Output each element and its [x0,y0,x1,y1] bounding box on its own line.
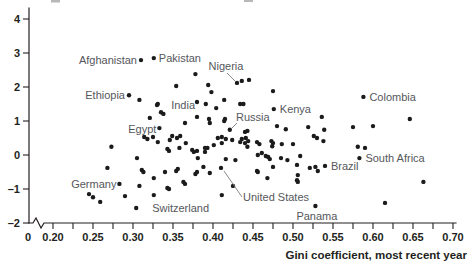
country-label: Pakistan [159,52,201,64]
data-point [167,149,171,153]
data-point [137,184,141,188]
data-point [271,89,275,93]
x-tick-label: 0.35 [162,231,183,243]
data-point [233,158,237,162]
data-point [256,153,260,157]
data-point [87,192,91,196]
x-tick-label: 0.45 [242,231,263,243]
country-label: Panama [296,210,338,222]
label-leader-line [232,123,237,128]
data-point [320,115,324,119]
data-point [184,141,188,145]
data-point [296,173,300,177]
country-label: India [171,99,196,111]
y-tick-label: 4 [14,13,21,25]
data-point [135,156,139,160]
data-point [145,137,149,141]
data-point [141,170,145,174]
x-tick-label: 0.40 [202,231,223,243]
data-point [265,176,269,180]
data-point [280,142,284,146]
data-point [315,136,319,140]
data-point [222,119,226,123]
x-tick-label: 0.25 [82,231,103,243]
data-point [421,180,425,184]
data-point [291,142,295,146]
data-point [98,200,102,204]
data-point [284,127,288,131]
y-tick-label: –1 [8,183,20,195]
data-point [205,146,209,150]
data-point [178,134,182,138]
data-point [240,79,244,83]
data-point [209,90,213,94]
x-tick-label: 0.55 [322,231,343,243]
data-point [208,121,212,125]
data-point [241,102,245,106]
y-tick-label: 0 [14,149,20,161]
data-point [270,144,274,148]
data-point [296,180,300,184]
data-point [152,193,156,197]
data-point [206,83,210,87]
labeled-data-point [134,206,138,210]
x-tick-label: 0.70 [442,231,463,243]
data-point [257,142,261,146]
data-point [316,169,320,173]
y-tick-label: 1 [14,115,20,127]
x-tick-label: 0.30 [122,231,143,243]
data-point [105,166,109,170]
scatter-chart: 43210–1–20.200.250.300.350.400.450.500.5… [0,0,470,273]
data-point [240,137,244,141]
labeled-data-point [157,126,161,130]
data-point [109,145,113,149]
labeled-data-point [195,100,199,104]
data-point [243,141,247,145]
country-label: Switzerland [152,202,209,214]
labeled-data-point [313,204,317,208]
data-point [271,165,275,169]
data-point [168,138,172,142]
data-point [183,121,187,125]
data-point [222,98,226,102]
data-point [174,84,178,88]
country-label: South Africa [365,152,425,164]
data-point [243,130,247,134]
x-axis-title: Gini coefficient, most recent year [285,249,467,261]
data-point [196,156,200,160]
x-tick-label: 0.60 [362,231,383,243]
data-point [156,140,160,144]
country-label: Germany [71,178,117,190]
data-point [212,143,216,147]
country-label: Brazil [331,160,359,172]
labeled-data-point [152,56,156,60]
y-tick-label: 3 [14,47,20,59]
data-point [245,145,249,149]
country-label: Nigeria [209,60,245,72]
axes: 43210–1–20.200.250.300.350.400.450.500.5… [8,8,464,243]
data-point [363,146,367,150]
data-point [201,165,205,169]
data-point [161,112,165,116]
y-tick-label: –2 [8,217,20,229]
data-point [183,182,187,186]
data-point [148,116,152,120]
country-label: United States [243,191,310,203]
country-label: Colombia [369,91,416,103]
labeled-data-point [272,107,276,111]
data-point [207,117,211,121]
country-label: Ethiopia [85,89,126,101]
data-point [123,194,127,198]
scatter-plot-page: 43210–1–20.200.250.300.350.400.450.500.5… [0,0,470,273]
x-tick-label: 0.50 [282,231,303,243]
labeled-data-point [127,93,131,97]
x-tick-label: 0.20 [42,231,63,243]
data-point [298,154,302,158]
labeled-data-point [323,164,327,168]
data-point [163,170,167,174]
label-leader-line [224,171,242,197]
data-point [195,115,199,119]
x-tick-label: 0.65 [402,231,423,243]
data-point [208,171,212,175]
country-label: Afghanistan [79,54,137,66]
